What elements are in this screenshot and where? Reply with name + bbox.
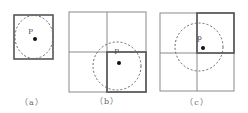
caption-b: （b） [95,95,119,106]
point-label-c: p [197,34,202,42]
panel-a [14,15,53,59]
point-p [201,46,205,50]
point-p [33,37,37,41]
search-circle [175,23,223,71]
panel-c [160,13,234,91]
point-label-b: P [114,48,120,56]
panel-b [69,12,146,92]
search-circle [15,16,53,59]
point-p [117,61,121,65]
caption-c: （c） [185,96,208,107]
caption-a: （a） [20,96,44,107]
point-label-a: P [28,28,34,36]
